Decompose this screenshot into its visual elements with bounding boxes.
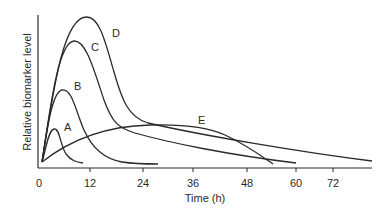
curve-b [42, 90, 158, 164]
curve-label-b: B [74, 80, 81, 92]
curve-d [42, 17, 372, 162]
chart: 0122436486072 ABCDE Time (h) Relative bi… [0, 0, 391, 223]
curve-label-d: D [112, 27, 120, 39]
x-tick-label: 24 [137, 177, 149, 189]
curve-label-a: A [64, 121, 72, 133]
x-tick-label: 60 [290, 177, 302, 189]
curve-label-c: C [91, 41, 99, 53]
curve-e [42, 125, 273, 164]
x-tick-label: 12 [84, 177, 96, 189]
x-ticks: 0122436486072 [36, 168, 339, 189]
x-tick-label: 0 [36, 177, 42, 189]
curve-label-e: E [198, 114, 205, 126]
x-axis-label: Time (h) [185, 192, 226, 204]
x-tick-label: 72 [327, 177, 339, 189]
y-axis-label: Relative biomarker level [21, 33, 33, 150]
x-tick-label: 36 [187, 177, 199, 189]
curves: ABCDE [42, 17, 372, 164]
x-tick-label: 48 [241, 177, 253, 189]
